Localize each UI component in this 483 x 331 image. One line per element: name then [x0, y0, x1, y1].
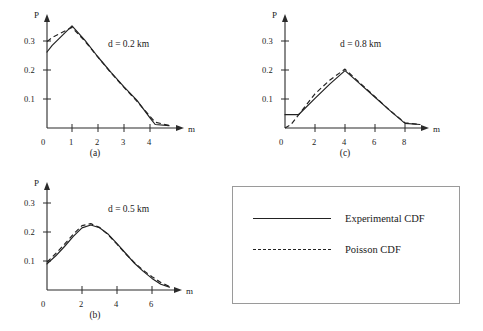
chart-b-svg: P m 0.1 0.2 0.3 0 2 4 6 d = 0.5 km	[0, 170, 225, 315]
y-ticklabel-c-2: 0.2	[262, 65, 273, 75]
y-axis-arrow-a	[44, 14, 50, 22]
x-ticklabel-b-3: 6	[149, 299, 153, 309]
y-ticklabel-b-3: 0.3	[24, 198, 35, 208]
y-axis-label-b: P	[34, 178, 39, 188]
y-ticklabel-c-3: 0.3	[262, 36, 273, 46]
condition-label-c: d = 0.8 km	[340, 39, 382, 49]
x-ticklabel-a-2: 2	[95, 137, 99, 147]
solid-line-swatch-icon	[253, 218, 331, 220]
experimental-curve-c	[285, 71, 420, 125]
chart-panel-b: P m 0.1 0.2 0.3 0 2 4 6 d = 0.5 km (b)	[0, 170, 225, 331]
x-axis-arrow-c	[421, 125, 429, 131]
y-ticklabel-a-2: 0.2	[24, 65, 35, 75]
x-axis-label-a: m	[188, 124, 195, 134]
panel-caption-a: (a)	[75, 148, 115, 158]
chart-a-svg: P m 0.1 0.2 0.3 0 1 2 3 4 d = 0.2 km	[0, 0, 215, 150]
chart-panel-c: P m 0.1 0.2 0.3 0 2 4 6 8 d = 0.8 km (c)	[245, 0, 483, 165]
y-ticklabel-a-1: 0.1	[24, 94, 35, 104]
x-axis-arrow-a	[176, 125, 184, 131]
y-axis-label-c: P	[272, 10, 277, 20]
condition-label-a: d = 0.2 km	[108, 39, 150, 49]
y-ticklabel-b-1: 0.1	[24, 256, 35, 266]
y-ticklabel-a-3: 0.3	[24, 36, 35, 46]
y-axis-arrow-c	[282, 14, 288, 22]
origin-label-b: 0	[41, 299, 45, 309]
y-axis-label-a: P	[34, 10, 39, 20]
x-axis-label-c: m	[433, 124, 440, 134]
x-ticklabel-a-4: 4	[147, 137, 152, 147]
panel-caption-c: (c)	[325, 148, 365, 158]
y-ticklabel-b-2: 0.2	[24, 227, 35, 237]
dashed-line-swatch-icon	[253, 249, 331, 251]
x-ticklabel-c-1: 2	[312, 137, 316, 147]
x-ticklabel-c-2: 4	[342, 137, 347, 147]
legend-label-experimental: Experimental CDF	[345, 213, 425, 224]
legend-box: Experimental CDF Poisson CDF	[232, 186, 460, 304]
x-ticklabel-c-4: 8	[402, 137, 406, 147]
origin-label-c: 0	[279, 137, 283, 147]
x-ticklabel-b-1: 2	[79, 299, 83, 309]
legend-label-poisson: Poisson CDF	[345, 244, 401, 255]
legend-row-poisson: Poisson CDF	[253, 244, 401, 255]
x-axis-arrow-b	[174, 287, 182, 293]
x-ticklabel-a-1: 1	[69, 137, 73, 147]
experimental-curve-b	[47, 225, 170, 287]
y-ticklabel-c-1: 0.1	[262, 94, 273, 104]
x-ticklabel-b-2: 4	[114, 299, 119, 309]
legend-row-experimental: Experimental CDF	[253, 213, 425, 224]
y-axis-arrow-b	[44, 182, 50, 190]
chart-c-svg: P m 0.1 0.2 0.3 0 2 4 6 8 d = 0.8 km	[245, 0, 483, 150]
condition-label-b: d = 0.5 km	[108, 204, 150, 214]
panel-caption-b: (b)	[75, 310, 115, 320]
x-ticklabel-a-3: 3	[121, 137, 125, 147]
x-ticklabel-c-3: 6	[372, 137, 376, 147]
x-axis-label-b: m	[186, 286, 193, 296]
chart-panel-a: P m 0.1 0.2 0.3 0 1 2 3 4 d = 0.2 km (a)	[0, 0, 215, 165]
origin-label-a: 0	[41, 137, 45, 147]
